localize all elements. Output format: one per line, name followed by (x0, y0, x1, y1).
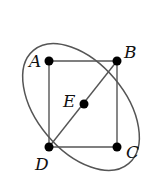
graph-diagram: A B C D E (0, 0, 163, 190)
node-b (113, 57, 122, 66)
node-a (45, 57, 54, 66)
node-c (113, 143, 122, 152)
label-a: A (27, 51, 41, 71)
label-e: E (62, 91, 76, 111)
label-c: C (126, 142, 139, 162)
node-e (80, 100, 89, 109)
label-b: B (123, 42, 137, 62)
node-d (45, 143, 54, 152)
label-d: D (34, 154, 49, 174)
